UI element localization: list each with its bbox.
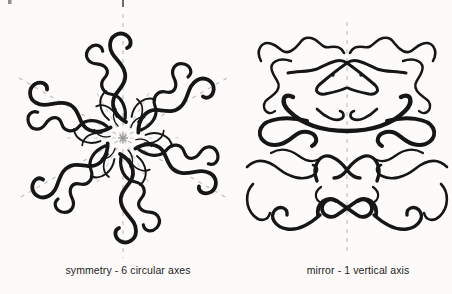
scan-artifact-mark: [8, 0, 12, 4]
right-figure: mirror - 1 vertical axis: [247, 22, 447, 276]
left-figure-caption: symmetry - 6 circular axes: [65, 264, 190, 276]
illustration-canvas: symmetry - 6 circular axes mirror - 1 ve…: [0, 0, 452, 294]
left-figure: symmetry - 6 circular axes: [0, 0, 247, 276]
center-asterisk-marker: [118, 133, 128, 143]
symmetry-illustration: symmetry - 6 circular axes mirror - 1 ve…: [0, 0, 452, 294]
radial-squiggle-arms: [0, 27, 247, 249]
right-figure-caption: mirror - 1 vertical axis: [307, 264, 410, 276]
mirror-half-right: [317, 38, 447, 230]
